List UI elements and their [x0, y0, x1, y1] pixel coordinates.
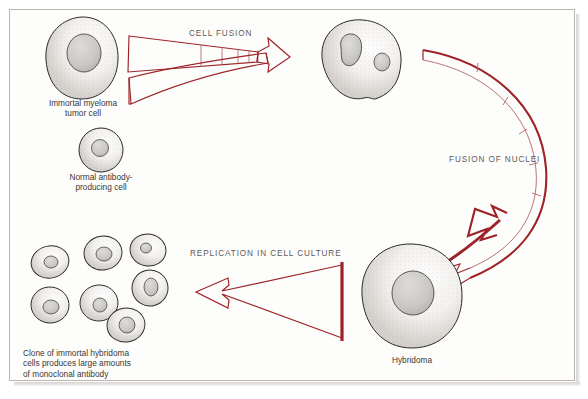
diagram-artwork — [0, 0, 588, 399]
label-clone-cells: Clone of immortal hybridoma cells produc… — [23, 348, 223, 379]
clone-cell — [29, 285, 71, 325]
diagram-canvas: CELL FUSION FUSION OF NUCLEI REPLICATION… — [0, 0, 588, 399]
caption-cell-fusion: CELL FUSION — [189, 29, 252, 38]
label-myeloma-line2: tumor cell — [23, 108, 143, 118]
label-normal-line1: Normal antibody- — [41, 172, 161, 182]
cell-normal-antibody — [79, 128, 123, 172]
clone-cell — [28, 242, 72, 281]
clone-cell — [82, 234, 124, 273]
cell-myeloma-tumor — [46, 17, 118, 99]
label-clone-line1: Clone of immortal hybridoma — [23, 348, 223, 358]
label-normal-antibody-cell: Normal antibody- producing cell — [41, 172, 161, 193]
label-hybridoma-cell: Hybridoma — [372, 355, 452, 365]
cell-binucleate-fused — [322, 20, 401, 99]
caption-replication-in-cell-culture: REPLICATION IN CELL CULTURE — [190, 249, 342, 258]
label-myeloma-tumor-cell: Immortal myeloma tumor cell — [23, 98, 143, 119]
label-hybridoma-line1: Hybridoma — [372, 355, 452, 365]
clone-cell — [128, 266, 172, 310]
label-myeloma-line1: Immortal myeloma — [23, 98, 143, 108]
clone-cell — [127, 231, 168, 269]
label-normal-line2: producing cell — [41, 182, 161, 192]
cell-fusion-arrow — [128, 36, 290, 104]
replication-arrow — [196, 262, 342, 341]
cell-hybridoma — [362, 244, 462, 348]
label-clone-line2: cells produces large amounts — [23, 358, 223, 368]
caption-fusion-of-nuclei: FUSION OF NUCLEI — [449, 155, 540, 164]
label-clone-line3: of monoclonal antibody — [23, 369, 223, 379]
cell-clone-cluster — [28, 231, 172, 345]
